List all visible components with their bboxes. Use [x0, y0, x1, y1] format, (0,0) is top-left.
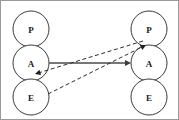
node-right-a-circle[interactable]: [131, 45, 167, 81]
dashed-edge-line[interactable]: [48, 47, 142, 94]
dashed-edge-right-p-to-left-junction[interactable]: [35, 41, 143, 75]
node-left-a-circle[interactable]: [13, 45, 49, 81]
node-left-p[interactable]: P: [13, 11, 49, 47]
solid-edge-arrowhead-icon: [125, 60, 131, 66]
edge-layer: [35, 41, 146, 94]
node-left-e[interactable]: E: [13, 79, 49, 115]
diagram-svg: P A E P A E: [1, 1, 179, 120]
right-stack: P A E: [131, 11, 167, 115]
left-stack: P A E: [13, 11, 49, 115]
node-right-e[interactable]: E: [131, 79, 167, 115]
solid-edge-left-a-to-right-a[interactable]: [49, 60, 131, 66]
node-left-a[interactable]: A: [13, 45, 49, 81]
dashed-edge-left-e-to-right-p[interactable]: [48, 45, 146, 94]
diagram-canvas: P A E P A E: [0, 0, 179, 120]
dashed-edge-line[interactable]: [39, 41, 143, 73]
node-right-e-circle[interactable]: [131, 79, 167, 115]
node-right-a[interactable]: A: [131, 45, 167, 81]
node-right-p-circle[interactable]: [131, 11, 167, 47]
node-left-e-circle[interactable]: [13, 79, 49, 115]
node-left-p-circle[interactable]: [13, 11, 49, 47]
node-right-p[interactable]: P: [131, 11, 167, 47]
